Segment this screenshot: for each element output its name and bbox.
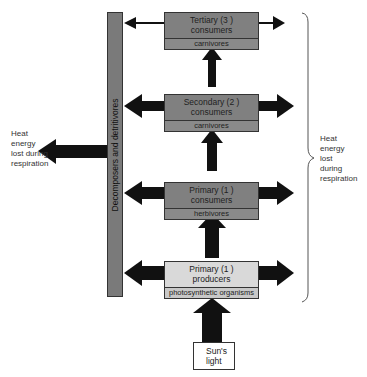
level-sub: photosynthetic organisms [165, 288, 258, 298]
sun-light-box: Sun's light [193, 342, 235, 370]
primary-producers-box: Primary (1 ) producers photosynthetic or… [164, 261, 259, 299]
decomposers-label: Decomposers and detritivores [110, 98, 120, 211]
secondary-consumers-box: Secondary (2 ) consumers carnivores [164, 94, 259, 132]
level-title-2: consumers [165, 25, 258, 35]
heat-text: energy [11, 139, 48, 149]
heat-text: energy [320, 144, 357, 154]
heat-text: respiration [320, 174, 357, 184]
level-sub: herbivores [165, 209, 258, 219]
level-title-2: consumers [165, 107, 258, 117]
sun-label-2: light [206, 356, 234, 366]
tertiary-consumers-box: Tertiary (3 ) consumers carnivores [164, 12, 259, 50]
level-title-2: consumers [165, 195, 258, 205]
level-title-2: producers [165, 274, 258, 284]
heat-loss-left-label: Heat energy lost during respiration [11, 129, 48, 169]
level-title: Primary (1 ) [165, 264, 258, 274]
heat-text: lost [320, 154, 357, 164]
heat-text: lost during [11, 149, 48, 159]
heat-text: respiration [11, 159, 48, 169]
level-sub: carnivores [165, 39, 258, 49]
primary-consumers-box: Primary (1 ) consumers herbivores [164, 182, 259, 220]
sun-label-1: Sun's [206, 346, 234, 356]
level-title: Tertiary (3 ) [165, 15, 258, 25]
heat-text: Heat [11, 129, 48, 139]
heat-text: Heat [320, 134, 357, 144]
level-title: Secondary (2 ) [165, 97, 258, 107]
heat-loss-right-label: Heat energy lost during respiration [320, 134, 357, 184]
level-sub: carnivores [165, 121, 258, 131]
decomposers-bar: Decomposers and detritivores [107, 12, 123, 297]
heat-text: during [320, 164, 357, 174]
level-title: Primary (1 ) [165, 185, 258, 195]
